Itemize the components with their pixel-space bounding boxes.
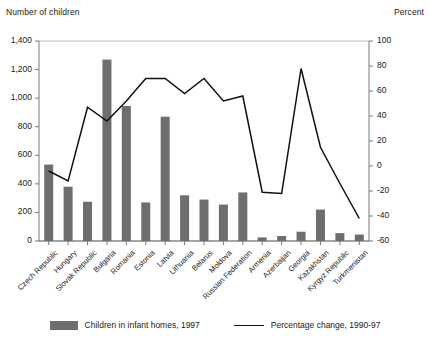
bar [122,106,131,241]
bar [335,233,344,241]
right-tick-label: -20 [377,186,389,195]
bar [297,232,306,241]
percentage-change-line [49,69,360,219]
left-tick-label: 1,200 [11,65,32,74]
left-tick-label: 400 [18,179,32,188]
legend-item-line: Percentage change, 1990-97 [234,320,381,330]
bar [238,192,247,241]
legend-bar-swatch-icon [50,321,78,330]
right-tick-label: -40 [377,211,389,220]
right-tick-label: 100 [377,36,391,45]
left-tick-label: 800 [18,122,32,131]
bar [102,60,111,241]
bar [161,117,170,241]
bar [141,202,150,241]
legend-item-bar: Children in infant homes, 1997 [50,320,200,330]
bar [200,200,209,241]
bar [258,237,267,241]
bar [316,210,325,241]
right-tick-label: 40 [377,111,386,120]
bar [180,195,189,241]
legend-line-label: Percentage change, 1990-97 [271,320,381,330]
chart-legend: Children in infant homes, 1997 Percentag… [0,320,430,330]
right-tick-label: 60 [377,86,386,95]
right-tick-label: 20 [377,136,386,145]
legend-bar-label: Children in infant homes, 1997 [85,320,200,330]
chart-container: Number of children Percent 0200400600800… [0,0,430,339]
left-tick-label: 600 [18,150,32,159]
left-tick-label: 1,400 [11,36,32,45]
right-tick-label: -60 [377,236,389,245]
left-tick-label: 1,000 [11,93,32,102]
left-tick-label: 0 [27,236,32,245]
bar [355,235,364,241]
bar [64,187,73,241]
bar [44,165,53,241]
bar [219,205,228,241]
right-tick-label: 80 [377,61,386,70]
left-tick-label: 200 [18,207,32,216]
bar [277,236,286,241]
legend-line-swatch-icon [234,325,264,326]
bar [83,202,92,241]
right-tick-label: 0 [377,161,382,170]
